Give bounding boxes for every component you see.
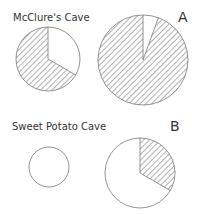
pie-b-left [29,147,69,187]
pie-b-right [105,138,175,208]
pie-a-left [16,27,80,91]
pie-charts [0,0,199,215]
pie-a-right [98,15,188,105]
